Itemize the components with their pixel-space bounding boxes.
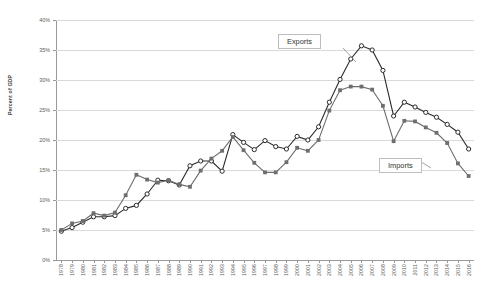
- x-tick-mark: [469, 260, 470, 263]
- data-point-exports-2004: [338, 77, 342, 81]
- x-tick-label: 1999: [283, 264, 289, 276]
- data-point-exports-2016: [467, 147, 471, 151]
- x-tick-mark: [211, 260, 212, 263]
- x-tick-label: 1981: [91, 264, 97, 276]
- y-tick-label: 35%: [4, 47, 50, 53]
- x-tick-label: 1988: [166, 264, 172, 276]
- data-point-exports-1997: [263, 139, 267, 143]
- x-tick-mark: [244, 260, 245, 263]
- data-point-imports-1987: [156, 181, 160, 185]
- data-point-imports-2009: [392, 139, 396, 143]
- data-point-exports-1995: [241, 140, 245, 144]
- data-point-imports-1996: [252, 161, 256, 165]
- x-tick-mark: [404, 260, 405, 263]
- data-point-imports-1993: [220, 149, 224, 153]
- data-point-imports-1989: [177, 183, 181, 187]
- x-tick-mark: [297, 260, 298, 263]
- x-tick-mark: [351, 260, 352, 263]
- y-tick-label: 15%: [4, 167, 50, 173]
- data-point-imports-1982: [102, 214, 106, 218]
- x-tick-label: 2009: [391, 264, 397, 276]
- data-point-exports-2006: [359, 44, 363, 48]
- x-tick-label: 1991: [198, 264, 204, 276]
- data-point-imports-1999: [285, 160, 289, 164]
- x-tick-label: 1987: [155, 264, 161, 276]
- data-point-imports-1983: [113, 211, 117, 215]
- x-tick-mark: [361, 260, 362, 263]
- x-tick-mark: [158, 260, 159, 263]
- data-point-imports-2000: [295, 146, 299, 150]
- x-tick-label: 1993: [219, 264, 225, 276]
- data-point-imports-2015: [456, 162, 460, 166]
- data-point-imports-2010: [402, 119, 406, 123]
- x-tick-label: 1989: [176, 264, 182, 276]
- plot-area: 0%5%10%15%20%25%30%35%40% 19781979198019…: [56, 20, 474, 260]
- x-tick-mark: [308, 260, 309, 263]
- data-point-exports-2002: [316, 125, 320, 129]
- data-point-exports-1984: [124, 206, 128, 210]
- x-tick-mark: [94, 260, 95, 263]
- x-tick-mark: [265, 260, 266, 263]
- data-point-imports-1978: [59, 228, 63, 232]
- x-tick-mark: [340, 260, 341, 263]
- x-tick-label: 1992: [208, 264, 214, 276]
- data-point-imports-2006: [360, 85, 364, 89]
- data-point-exports-1998: [274, 145, 278, 149]
- x-tick-mark: [190, 260, 191, 263]
- data-point-exports-2007: [370, 48, 374, 52]
- x-tick-label: 2001: [305, 264, 311, 276]
- y-tick-label: 40%: [4, 17, 50, 23]
- x-tick-label: 2007: [369, 264, 375, 276]
- x-tick-mark: [329, 260, 330, 263]
- legend-label-imports: Imports: [379, 158, 422, 173]
- data-point-exports-2003: [327, 100, 331, 104]
- x-tick-label: 1978: [58, 264, 64, 276]
- x-tick-mark: [394, 260, 395, 263]
- x-tick-label: 2011: [412, 264, 418, 276]
- data-point-exports-2012: [424, 110, 428, 114]
- x-tick-label: 2016: [466, 264, 472, 276]
- data-point-imports-2012: [424, 126, 428, 130]
- x-tick-label: 1990: [187, 264, 193, 276]
- x-tick-mark: [115, 260, 116, 263]
- x-tick-label: 1986: [144, 264, 150, 276]
- data-point-imports-2001: [306, 149, 310, 153]
- data-point-imports-1988: [167, 178, 171, 182]
- data-point-imports-1984: [124, 193, 128, 197]
- data-point-imports-2005: [349, 85, 353, 89]
- x-tick-label: 1983: [112, 264, 118, 276]
- x-tick-label: 1994: [230, 264, 236, 276]
- x-tick-mark: [372, 260, 373, 263]
- legend-label-exports: Exports: [278, 34, 321, 49]
- x-tick-label: 1985: [133, 264, 139, 276]
- x-tick-label: 2008: [380, 264, 386, 276]
- x-tick-label: 2006: [358, 264, 364, 276]
- data-point-imports-2016: [467, 174, 471, 178]
- y-tick-label: 10%: [4, 197, 50, 203]
- data-point-exports-2010: [402, 100, 406, 104]
- data-point-exports-1985: [134, 203, 138, 207]
- data-point-exports-1986: [145, 192, 149, 196]
- data-point-imports-1997: [263, 171, 267, 175]
- data-point-exports-1999: [284, 147, 288, 151]
- x-tick-label: 1995: [241, 264, 247, 276]
- x-tick-mark: [104, 260, 105, 263]
- x-tick-mark: [83, 260, 84, 263]
- data-point-imports-1991: [199, 169, 203, 173]
- data-point-exports-2013: [434, 115, 438, 119]
- x-tick-mark: [458, 260, 459, 263]
- x-tick-mark: [61, 260, 62, 263]
- x-tick-label: 1979: [69, 264, 75, 276]
- x-tick-mark: [147, 260, 148, 263]
- x-tick-label: 1997: [262, 264, 268, 276]
- data-point-imports-1992: [210, 157, 214, 161]
- x-tick-mark: [383, 260, 384, 263]
- data-point-exports-2009: [392, 114, 396, 118]
- x-tick-mark: [276, 260, 277, 263]
- x-tick-label: 2015: [455, 264, 461, 276]
- x-tick-mark: [169, 260, 170, 263]
- data-point-imports-1980: [81, 219, 85, 223]
- x-tick-mark: [319, 260, 320, 263]
- data-series-layer: [56, 20, 474, 260]
- x-tick-label: 1982: [101, 264, 107, 276]
